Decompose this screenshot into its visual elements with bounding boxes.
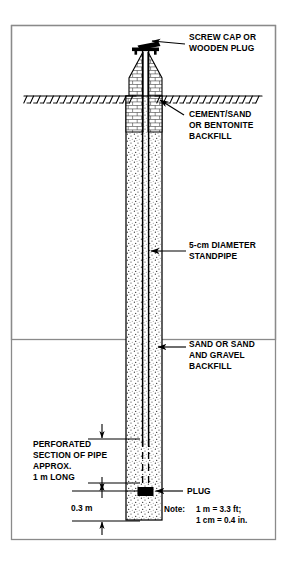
figure-canvas: SCREW CAP OR WOODEN PLUG CEMENT/SAND OR …	[0, 0, 291, 564]
note-line2: 1 cm = 0.4 in.	[196, 516, 247, 525]
label-perforated-line4: 1 m LONG	[33, 472, 75, 482]
dimension-label-0-3m: 0.3 m	[71, 503, 92, 513]
label-perforated-line2: SECTION OF PIPE	[33, 450, 107, 460]
label-perforated-line1: PERFORATED	[33, 439, 91, 449]
label-standpipe-line1: 5-cm DIAMETER	[189, 240, 256, 250]
note-prefix: Note:	[164, 505, 185, 514]
label-sand-line3: BACKFILL	[189, 361, 232, 371]
label-cement-line1: CEMENT/SAND	[189, 109, 252, 119]
label-screw-cap-line1: SCREW CAP OR	[189, 32, 256, 42]
label-standpipe-line2: STANDPIPE	[189, 251, 238, 261]
label-screw-cap-line2: WOODEN PLUG	[189, 43, 254, 53]
label-cement-line2: OR BENTONITE	[189, 120, 254, 130]
label-plug: PLUG	[187, 486, 211, 496]
label-perforated-line3: APPROX.	[33, 461, 71, 471]
label-cement-line3: BACKFILL	[189, 131, 232, 141]
borehole-backfill-column	[126, 96, 162, 520]
standpipe-piezometer-diagram: SCREW CAP OR WOODEN PLUG CEMENT/SAND OR …	[0, 0, 291, 564]
screw-cap-assembly	[132, 42, 161, 55]
leader-cement	[160, 100, 184, 115]
label-sand-line2: AND GRAVEL	[189, 350, 245, 360]
note-line1: 1 m = 3.3 ft;	[196, 505, 241, 514]
label-sand-line1: SAND OR SAND	[189, 339, 255, 349]
